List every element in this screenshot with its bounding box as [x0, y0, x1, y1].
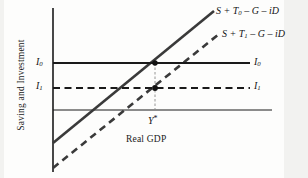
series-label-i0: I0: [254, 56, 261, 67]
series-label-i1: I1: [254, 80, 261, 91]
economics-figure: Saving and Investment Real GDP S + T0 – …: [0, 0, 308, 178]
curve-label-t1: S + T1 – G – iD: [222, 28, 285, 39]
curve-label-t0-prefix: S + T: [216, 5, 238, 16]
equilibrium-label: Y*: [148, 114, 158, 126]
series-label-i0-sub: 0: [257, 60, 260, 67]
equilibrium-dot-lower: [152, 85, 158, 91]
y-tick-label-i0-sub: 0: [39, 60, 42, 67]
y-tick-label-i0: I0: [36, 56, 43, 67]
equilibrium-dot-upper: [152, 60, 157, 65]
x-axis-title: Real GDP: [126, 134, 166, 144]
curve-label-t0: S + T0 – G – iD: [216, 5, 279, 16]
y-tick-label-i1-sub: 1: [39, 84, 42, 91]
curve-label-t1-suffix: – G – iD: [248, 28, 285, 39]
curve-saving-t0: [53, 11, 214, 143]
curve-label-t0-suffix: – G – iD: [242, 5, 279, 16]
curve-saving-t1: [53, 34, 219, 168]
plot-area: [0, 0, 308, 178]
series-label-i1-sub: 1: [257, 84, 260, 91]
y-tick-label-i1: I1: [36, 80, 43, 91]
y-axis-title: Saving and Investment: [16, 25, 26, 145]
equilibrium-label-star: *: [154, 114, 158, 123]
curve-label-t1-prefix: S + T: [222, 28, 244, 39]
